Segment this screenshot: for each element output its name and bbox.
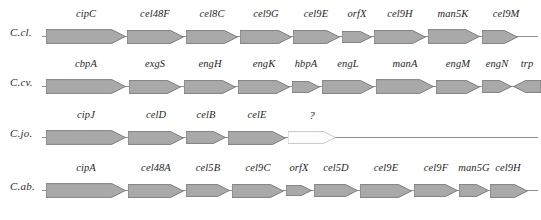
gene-label-cel9M: cel9M bbox=[493, 8, 520, 19]
gene-label-engH: engH bbox=[198, 58, 221, 69]
gene-arrow-engH bbox=[184, 80, 236, 94]
gene-label-celD: celD bbox=[146, 109, 166, 120]
gene-label-celB: celB bbox=[196, 109, 215, 120]
gene-arrow-engN bbox=[482, 80, 512, 93]
gene-label-cel9C: cel9C bbox=[246, 162, 271, 173]
gene-label-engM: engM bbox=[446, 58, 470, 69]
gene-label-trp: trp bbox=[521, 58, 534, 69]
gene-label-cel48A: cel48A bbox=[141, 162, 171, 173]
gene-arrow-celE bbox=[228, 131, 286, 145]
gene-arrow-exgS bbox=[129, 80, 181, 94]
gene-arrow-cel5D bbox=[314, 184, 358, 197]
gene-arrow-engL bbox=[322, 80, 374, 94]
gene-arrow-cel9G bbox=[240, 30, 292, 44]
gene-label-cel5B: cel5B bbox=[196, 162, 220, 173]
gene-arrow-cel9E bbox=[293, 30, 340, 44]
gene-arrow-hbpA bbox=[292, 81, 320, 93]
gene-arrow-cel9C bbox=[232, 184, 284, 198]
species-label-ccv: C.cv. bbox=[10, 76, 33, 88]
gene-arrow-cel9H bbox=[490, 184, 528, 198]
species-label-ccl: C.cl. bbox=[10, 26, 32, 38]
gene-label-manA: manA bbox=[393, 58, 418, 69]
species-label-cab: C.ab. bbox=[10, 180, 35, 192]
gene-arrow-cel8C bbox=[186, 30, 238, 44]
gene-arrow-cipC bbox=[46, 29, 126, 44]
gene-arrow-trp bbox=[513, 80, 541, 93]
gene-arrow-man5G bbox=[459, 184, 489, 197]
gene-arrow-orfX bbox=[342, 31, 372, 43]
gene-label-man5K: man5K bbox=[438, 8, 469, 19]
gene-label-engN: engN bbox=[486, 58, 509, 69]
gene-arrow- bbox=[288, 131, 336, 144]
gene-label-cel5D: cel5D bbox=[323, 162, 349, 173]
gene-label-cel9F: cel9F bbox=[424, 162, 448, 173]
gene-label-cel48F: cel48F bbox=[140, 8, 170, 19]
gene-arrow-cbpA bbox=[46, 79, 126, 94]
gene-label-hbpA: hbpA bbox=[295, 58, 318, 69]
gene-label-cipJ: cipJ bbox=[77, 109, 95, 120]
gene-arrow-cel9M bbox=[482, 30, 518, 44]
gene-arrow-cel48A bbox=[128, 184, 184, 198]
gene-arrow-cel9H bbox=[374, 30, 426, 44]
gene-label-cel9G: cel9G bbox=[253, 8, 279, 19]
gene-label-cipA: cipA bbox=[76, 162, 96, 173]
gene-label-cel9H: cel9H bbox=[387, 8, 413, 19]
gene-label-cel8C: cel8C bbox=[200, 8, 225, 19]
gene-label-cel9H: cel9H bbox=[495, 162, 521, 173]
gene-label-cel9E: cel9E bbox=[304, 8, 328, 19]
gene-label-cbpA: cbpA bbox=[75, 58, 97, 69]
gene-arrow-orfX bbox=[286, 185, 312, 196]
gene-label-celE: celE bbox=[247, 109, 266, 120]
gene-arrow-manA bbox=[376, 79, 434, 94]
gene-arrow-celB bbox=[186, 131, 226, 144]
gene-label-orfX: orfX bbox=[289, 162, 308, 173]
gene-arrow-cel9F bbox=[414, 184, 458, 197]
species-label-cjo: C.jo. bbox=[10, 127, 32, 139]
gene-label-exgS: exgS bbox=[145, 58, 165, 69]
gene-arrow-cipA bbox=[46, 183, 126, 198]
gene-arrow-cel48F bbox=[127, 30, 184, 44]
gene-label-man5G: man5G bbox=[458, 162, 489, 173]
gene-arrow-cel9E bbox=[360, 184, 412, 198]
gene-label-orfX: orfX bbox=[347, 8, 366, 19]
gene-arrow-cipJ bbox=[46, 130, 126, 145]
gene-arrow-celD bbox=[128, 131, 184, 145]
gene-label-unknown: ? bbox=[309, 109, 315, 121]
gene-label-cipC: cipC bbox=[76, 8, 96, 19]
gene-arrow-cel5B bbox=[186, 184, 230, 197]
gene-arrow-engK bbox=[238, 80, 290, 94]
gene-arrow-man5K bbox=[428, 29, 480, 44]
gene-label-engL: engL bbox=[337, 58, 358, 69]
gene-arrow-engM bbox=[436, 80, 480, 94]
gene-label-cel9E: cel9E bbox=[374, 162, 398, 173]
gene-label-engK: engK bbox=[253, 58, 276, 69]
